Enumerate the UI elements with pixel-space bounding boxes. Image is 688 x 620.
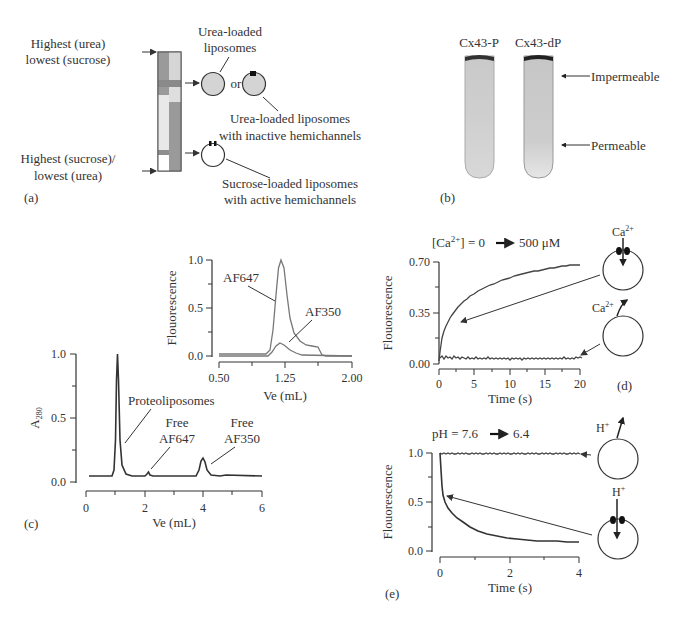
svg-text:6.4: 6.4 bbox=[513, 426, 530, 441]
e-liposome-no-channel-icon bbox=[598, 439, 638, 479]
inactive-hemichannel-icon bbox=[250, 71, 256, 76]
e-ylabel: Flouorescence bbox=[380, 464, 395, 539]
d-ca-bounce-arrow-icon bbox=[617, 300, 627, 316]
ann-free-af647: Free bbox=[165, 415, 188, 430]
pointer-urea-lipo bbox=[220, 57, 229, 72]
inset-ann-af647: AF647 bbox=[223, 270, 260, 285]
c-xtick: 6 bbox=[259, 501, 265, 515]
density-gradient-column bbox=[158, 52, 181, 171]
c-ytick: 1.0 bbox=[51, 347, 66, 361]
svg-text:0.5: 0.5 bbox=[188, 301, 203, 315]
figure-canvas: Highest (urea) lowest (sucrose) Highest … bbox=[0, 0, 688, 620]
panel-c-inset: 1.0 0.5 0.0 Flouorescence 0.50 1.25 2.00… bbox=[164, 253, 363, 403]
c-ytick: 0.0 bbox=[51, 475, 66, 489]
svg-text:0.35: 0.35 bbox=[409, 306, 430, 320]
inset-xlabel: Ve (mL) bbox=[263, 388, 307, 403]
d-rising-trace bbox=[439, 265, 580, 361]
c-ylabel: A280 bbox=[27, 407, 44, 428]
gradient-top-label-2: lowest (sucrose) bbox=[26, 52, 111, 67]
c-xtick: 4 bbox=[200, 501, 206, 515]
permeable-label: Permeable bbox=[591, 138, 646, 153]
active-label-2: with active hemichannels bbox=[224, 192, 356, 207]
e-decay-trace bbox=[440, 453, 579, 542]
panel-d: [Ca2+] = 0 500 μM 0.70 0.35 0.00 Flouore… bbox=[380, 224, 643, 406]
active-label: Sucrose-loaded liposomes bbox=[222, 176, 358, 191]
urea-liposome-icon bbox=[202, 73, 225, 96]
urea-lipo-label: Urea-loaded bbox=[198, 24, 263, 39]
panel-label-a: (a) bbox=[24, 190, 38, 205]
d-xlabel: Time (s) bbox=[488, 391, 532, 406]
gradient-bottom-label-2: lowest (urea) bbox=[34, 168, 102, 183]
e-h-bounce-arrow-icon bbox=[617, 418, 623, 438]
or-text: or bbox=[231, 76, 243, 91]
svg-text:20: 20 bbox=[574, 377, 586, 391]
e-liposome-with-hemichannel-icon bbox=[598, 519, 638, 559]
d-flat-trace bbox=[440, 356, 582, 360]
pointer-inactive bbox=[263, 97, 278, 111]
d-ion-bottom: Ca2+ bbox=[592, 300, 614, 315]
svg-text:AF647: AF647 bbox=[159, 431, 196, 446]
e-flat-trace bbox=[440, 453, 580, 454]
c-ytick: 0.5 bbox=[51, 411, 66, 425]
d-liposome-no-channel-icon bbox=[603, 316, 643, 356]
svg-text:0.0: 0.0 bbox=[188, 349, 203, 363]
c-xlabel: Ve (mL) bbox=[152, 515, 196, 530]
c-xtick: 2 bbox=[142, 501, 148, 515]
impermeable-label: Impermeable bbox=[591, 69, 660, 84]
d-ion-top: Ca2+ bbox=[612, 224, 634, 239]
panel-label-b: (b) bbox=[440, 190, 455, 205]
active-hemichannel-icon bbox=[209, 141, 212, 146]
svg-text:1.25: 1.25 bbox=[275, 371, 296, 385]
panel-b: Cx43-P Cx43-dP Impermeable Permeable (b) bbox=[440, 35, 660, 205]
e-xlabel: Time (s) bbox=[488, 580, 532, 595]
svg-text:4: 4 bbox=[576, 566, 582, 580]
svg-text:0: 0 bbox=[437, 566, 443, 580]
d-condition: [Ca2+] = 0 bbox=[432, 234, 485, 250]
tube-cx43-p bbox=[465, 56, 494, 178]
panel-a: Highest (urea) lowest (sucrose) Highest … bbox=[21, 24, 362, 207]
panel-e: pH = 7.6 6.4 1.0 0.5 0.0 Flouorescence 0… bbox=[380, 418, 638, 601]
svg-text:1.0: 1.0 bbox=[408, 446, 423, 460]
d-ylabel: Flouorescence bbox=[380, 275, 395, 350]
tube-cx43-dp bbox=[524, 56, 553, 178]
inset-ylabel: Flouorescence bbox=[164, 270, 179, 345]
tube-label-cx43-dp: Cx43-dP bbox=[515, 35, 561, 50]
panel-label-d: (d) bbox=[617, 378, 632, 393]
gradient-top-label: Highest (urea) bbox=[31, 36, 106, 51]
svg-text:0: 0 bbox=[436, 377, 442, 391]
c-xtick: 0 bbox=[83, 501, 89, 515]
urea-lipo-label-2: liposomes bbox=[204, 40, 257, 55]
panel-label-c: (c) bbox=[24, 516, 38, 531]
gradient-bottom-label: Highest (sucrose)/ bbox=[21, 151, 116, 166]
svg-text:0.5: 0.5 bbox=[408, 495, 423, 509]
tube-label-cx43-p: Cx43-P bbox=[459, 35, 499, 50]
svg-text:10: 10 bbox=[504, 377, 516, 391]
ann-proteoliposomes: Proteoliposomes bbox=[128, 393, 215, 408]
sucrose-liposome-icon bbox=[202, 144, 225, 167]
svg-text:AF350: AF350 bbox=[224, 431, 260, 446]
inactive-label: Urea-loaded liposomes bbox=[230, 111, 350, 126]
panel-label-e: (e) bbox=[385, 586, 399, 601]
svg-text:0.0: 0.0 bbox=[408, 544, 423, 558]
svg-text:2.00: 2.00 bbox=[342, 371, 363, 385]
e-ion-bottom: H+ bbox=[612, 484, 626, 499]
svg-text:5: 5 bbox=[471, 377, 477, 391]
inset-ann-af350: AF350 bbox=[305, 304, 341, 319]
svg-text:15: 15 bbox=[539, 377, 551, 391]
svg-text:1.0: 1.0 bbox=[188, 253, 203, 267]
svg-text:2: 2 bbox=[507, 566, 513, 580]
svg-text:0.00: 0.00 bbox=[409, 357, 430, 371]
svg-text:0.50: 0.50 bbox=[209, 371, 230, 385]
svg-text:500 μM: 500 μM bbox=[519, 235, 561, 250]
svg-text:0.70: 0.70 bbox=[409, 255, 430, 269]
ann-free-af350: Free bbox=[230, 415, 253, 430]
e-condition: pH = 7.6 bbox=[432, 426, 478, 441]
e-ion-top: H+ bbox=[596, 420, 610, 435]
inactive-label-2: with inactive hemichannels bbox=[219, 128, 361, 143]
